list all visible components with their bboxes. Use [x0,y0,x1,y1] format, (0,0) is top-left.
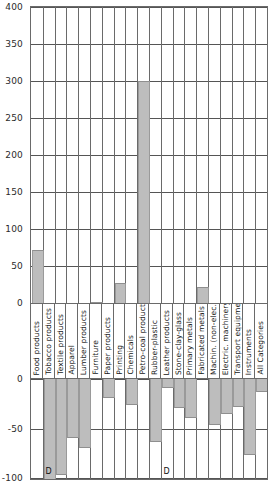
bar-negative [56,379,68,475]
bar-negative [185,379,197,418]
category-label: Leather products [162,310,171,375]
category-label: Lumber products [79,310,88,375]
category-label: Stone-clay-glass [174,312,183,375]
category-label: Textile products [56,314,65,375]
y-axis-tick-label: 0 [0,375,27,384]
category-label: Machin. (non-elec.) [209,304,218,375]
category-label: Petro-coal products [138,304,147,375]
gridline-vertical [102,7,103,303]
category-label-cell: Printing [114,304,126,378]
gridline-vertical [232,7,233,303]
bar-negative [244,379,256,455]
gridline-vertical [184,7,185,303]
category-label: Primary metals [185,317,194,375]
y-axis-lower: -100-500 [0,0,27,487]
category-label: Food products [32,321,41,375]
category-label-cell: Electric. machinery [220,304,232,378]
bar-chart: 050100150200250300350400 -100-500 Food p… [0,0,270,487]
category-label: Transport equipment [233,304,242,375]
bar-negative [221,379,233,414]
bar-negative [162,379,174,388]
category-label: Furniture [91,340,100,375]
y-axis-tick-label: -100 [0,474,27,483]
bar-negative [174,379,186,408]
category-label-cell: Furniture [90,304,102,378]
category-label-cell: Paper products [102,304,114,378]
bar-negative [44,379,56,480]
gridline-vertical [220,7,221,303]
category-label-cell: Petro-coal products [137,304,149,378]
category-label-cell: Machin. (non-elec.) [208,304,220,378]
category-label-cell: All Categories [255,304,267,378]
lower-plot-panel: DD [30,378,268,480]
category-label: Fabricated metals [197,306,206,375]
gridline-vertical [114,7,115,303]
category-label-cell: Instruments [243,304,255,378]
bar-negative [256,379,268,392]
bar-positive [138,81,150,304]
gridline-vertical [243,7,244,303]
bar-negative [233,379,245,407]
gridline-vertical [55,7,56,303]
bar-positive [197,287,209,304]
category-label: Electric. machinery [221,304,230,375]
bar-positive [115,283,127,304]
category-label-cell: Leather products [161,304,173,378]
category-label: Printing [115,345,124,375]
lower-plot-area: DD [31,379,267,479]
y-axis-tick-label: -50 [0,425,27,434]
category-label-cell: Textile products [55,304,67,378]
category-label: All Categories [256,321,265,375]
gridline-vertical [196,7,197,303]
category-label: Instruments [244,329,253,375]
category-label-cell: Chemicals [125,304,137,378]
gridline-vertical [208,7,209,303]
bar-negative [126,379,138,405]
category-label-cell: Transport equipment [232,304,244,378]
category-label-cell: Stone-clay-glass [173,304,185,378]
bar-negative [150,379,162,442]
category-label-cell: Apparel [66,304,78,378]
gridline-vertical [255,7,256,303]
category-label-cell: Lumber products [78,304,90,378]
bar-negative [103,379,115,398]
category-label-cell: Tobacco products [43,304,55,378]
gridline-vertical [173,7,174,303]
category-label: Tobacco products [44,308,53,375]
upper-plot-panel [30,6,268,304]
bar-negative [209,379,221,425]
category-label: Paper products [103,317,112,375]
category-label-cell: Primary metals [184,304,196,378]
category-label-cell: Rubber-plastic [149,304,161,378]
gridline-vertical [125,7,126,303]
gridline-vertical [90,7,91,303]
category-label: Apparel [67,345,76,375]
category-label-cell: Food products [31,304,43,378]
category-label: Chemicals [126,335,135,375]
category-label-band: Food productsTobacco productsTextile pro… [30,304,268,378]
category-label-cell: Fabricated metals [196,304,208,378]
bar-negative [67,379,79,438]
upper-plot-area [31,7,267,303]
annotation-d-marker: D [43,468,55,476]
gridline-vertical [78,7,79,303]
gridline-vertical [66,7,67,303]
annotation-d-marker: D [161,468,173,476]
category-label: Rubber-plastic [150,320,159,375]
gridline-vertical [161,7,162,303]
bar-positive [32,250,44,304]
bar-negative [79,379,91,448]
